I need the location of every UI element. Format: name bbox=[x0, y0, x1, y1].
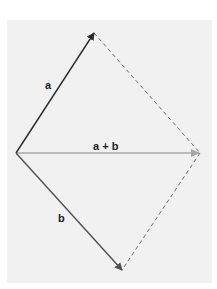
dashed-line-bottom bbox=[122, 153, 200, 270]
label-vector-a: a bbox=[45, 80, 51, 91]
vector-a-arrow bbox=[16, 33, 94, 153]
label-vector-sum: a + b bbox=[93, 141, 118, 152]
label-vector-b: b bbox=[58, 213, 65, 224]
dashed-line-top bbox=[94, 33, 200, 153]
vector-b-arrow bbox=[16, 153, 122, 270]
